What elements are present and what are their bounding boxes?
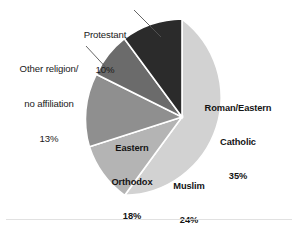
pie-label-orthodox-name-line1: Eastern: [90, 143, 174, 154]
pie-label-other-religion-name-line1: Other religion/: [2, 63, 96, 75]
pie-label-orthodox-percent: 18%: [90, 211, 174, 222]
pie-label-orthodox: Eastern Orthodox 18%: [90, 120, 174, 225]
pie-label-other-religion: Other religion/ no affiliation 13%: [2, 40, 96, 168]
pie-label-orthodox-name-line2: Orthodox: [90, 177, 174, 188]
pie-chart-figure: Protestant 10% Other religion/ no affili…: [0, 0, 300, 225]
pie-label-other-religion-name-line2: no affiliation: [2, 98, 96, 110]
pie-label-other-religion-percent: 13%: [2, 133, 96, 145]
pie-label-catholic-name-line2: Catholic: [188, 137, 288, 148]
pie-label-catholic-name-line1: Roman/Eastern: [188, 103, 288, 114]
scan-artifact-line: [6, 219, 292, 220]
